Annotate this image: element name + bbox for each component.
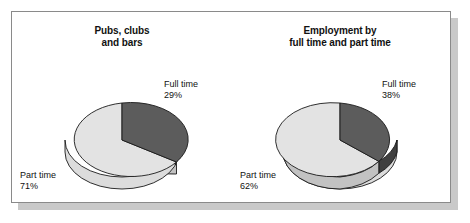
pie-right-label-part-time-value: 62% xyxy=(240,181,276,192)
pie-left-label-part-time-name: Part time xyxy=(20,170,56,181)
pie-right-label-part-time: Part time 62% xyxy=(240,170,276,191)
figure-frame: Pubs, clubs and bars Full ti xyxy=(11,11,451,203)
pie-right-label-full-time-name: Full time xyxy=(382,79,416,90)
chart-panel-employment-by-full-part-time: Employment by full time and part time F xyxy=(230,12,450,202)
pie-left-label-full-time-name: Full time xyxy=(164,79,198,90)
pie-left-label-part-time-value: 71% xyxy=(20,181,56,192)
figure-container: Pubs, clubs and bars Full ti xyxy=(0,0,470,223)
pie-right-label-part-time-name: Part time xyxy=(240,170,276,181)
pie-chart-left: Full time 29% Part time 71% xyxy=(12,12,232,202)
pie-chart-right: Full time 38% Part time 62% xyxy=(230,12,450,202)
pie-left-label-full-time-value: 29% xyxy=(164,90,198,101)
chart-panel-pubs-clubs-bars: Pubs, clubs and bars Full ti xyxy=(12,12,232,202)
pie-right-label-full-time-value: 38% xyxy=(382,90,416,101)
pie-left-label-part-time: Part time 71% xyxy=(20,170,56,191)
pie-right-label-full-time: Full time 38% xyxy=(382,79,416,100)
pie-left-label-full-time: Full time 29% xyxy=(164,79,198,100)
